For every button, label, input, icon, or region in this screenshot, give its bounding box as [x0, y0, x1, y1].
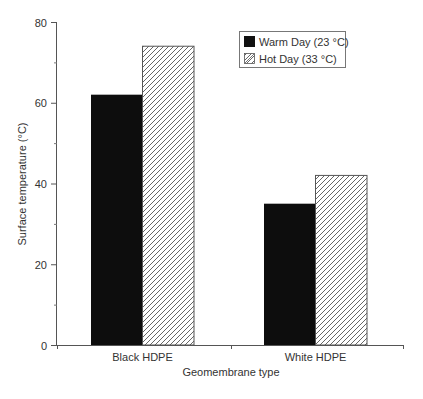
legend-swatch-warm-day	[244, 36, 255, 47]
x-tick-label: White HDPE	[285, 351, 347, 363]
bar-warm-day-black-hdpe	[91, 95, 143, 345]
y-tick-label: 60	[35, 97, 47, 109]
legend-label-hot-day: Hot Day (33 °C)	[259, 53, 337, 65]
bar-hot-day-white-hdpe	[316, 175, 368, 345]
x-tick-labels: Black HDPEWhite HDPE	[112, 351, 346, 363]
bar-warm-day-white-hdpe	[264, 204, 316, 345]
x-tick-label: Black HDPE	[112, 351, 173, 363]
bar-hot-day-black-hdpe	[143, 46, 195, 345]
y-tick-label: 40	[35, 178, 47, 190]
y-tick-label: 80	[35, 17, 47, 29]
y-axis-label: Surface temperature (°C)	[16, 123, 28, 246]
y-ticks: 020406080	[35, 17, 57, 352]
bar-chart: 020406080 Black HDPEWhite HDPE Geomembra…	[0, 0, 423, 399]
y-tick-label: 20	[35, 259, 47, 271]
legend-label-warm-day: Warm Day (23 °C)	[259, 36, 349, 48]
bars	[91, 46, 367, 345]
x-axis-label: Geomembrane type	[182, 366, 279, 378]
legend: Warm Day (23 °C) Hot Day (33 °C)	[240, 32, 349, 68]
y-tick-label: 0	[41, 340, 47, 352]
